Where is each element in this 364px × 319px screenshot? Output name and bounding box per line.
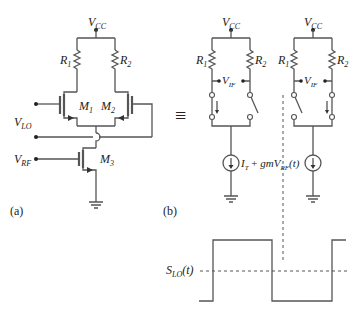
transistor-m1-icon [36,92,77,126]
equivalence-symbol: ≡ [175,104,186,126]
svg-text:R2: R2 [254,53,266,69]
svg-text:R1: R1 [277,53,289,69]
ground-icon-a [89,202,103,208]
transistor-m2-icon [115,92,152,137]
m1-gate-terminal-icon [34,102,38,106]
resistor-r1-icon [291,50,297,92]
ground-icon [224,171,238,202]
current-source-label: IT + gmVRF(t) [240,157,300,172]
vlo-terminal-icon [34,135,38,139]
r1-label-a: R1 [59,53,71,69]
m2-label: M2 [100,99,115,115]
slo-waveform: SLO(t) [166,240,350,301]
switch-cell-1: VCC R1 R2 VIF [195,15,266,202]
switch-open-icon [251,97,258,113]
vrf-label: VRF [14,152,31,168]
resistor-r2-icon [112,50,118,92]
caption-a: (a) [10,204,23,218]
caption-b: (b) [163,204,177,218]
vif-label-b2: VIF [304,74,318,89]
ground-icon [306,171,320,202]
resistor-r1-icon [209,50,215,92]
vif-label-b1: VIF [222,74,236,89]
resistor-r1-icon [74,50,80,92]
vlo-label: VLO [14,115,32,131]
mixer-diagram: VCC R1 R2 M1 M2 [0,0,364,319]
m3-label: M3 [99,152,114,168]
panel-a-circuit: VCC R1 R2 M1 M2 [10,15,152,218]
transistor-m3-icon [36,148,96,202]
panel-b-circuit: ≡ VCC R1 R2 VIF [163,15,348,262]
slo-label: SLO(t) [166,263,194,279]
m1-label: M1 [78,99,93,115]
r2-label-a: R2 [119,53,131,69]
svg-text:R1: R1 [195,53,207,69]
resistor-r2-icon [247,50,253,92]
resistor-r2-icon [329,50,335,92]
svg-text:R2: R2 [336,53,348,69]
switch-open-icon [295,97,302,113]
switch-cell-2: VCC R1 R2 VIF [277,15,348,202]
vrf-terminal-icon [34,157,38,161]
